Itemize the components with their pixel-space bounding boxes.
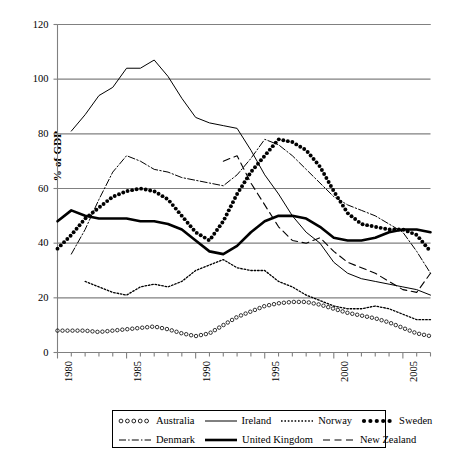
legend-key-dash-dot	[118, 434, 152, 446]
legend-item-ireland[interactable]: Ireland	[204, 415, 272, 427]
legend-item-label: Denmark	[156, 434, 195, 445]
legend-key-fine-dotted	[280, 415, 314, 427]
legend-item-label: New Zealand	[360, 434, 416, 445]
legend-item-label: Ireland	[242, 415, 272, 426]
legend-row: AustraliaIrelandNorwaySweden	[113, 411, 385, 430]
legend-key-dashed	[322, 434, 356, 446]
chart-root: % of GDP 020406080100120 198019851990199…	[0, 0, 456, 456]
legend-item-norway[interactable]: Norway	[280, 415, 352, 427]
series-norway	[85, 260, 430, 320]
series-united-kingdom	[58, 210, 431, 254]
legend-item-label: Norway	[318, 415, 352, 426]
legend-item-label: Sweden	[399, 415, 432, 426]
legend-item-new-zealand[interactable]: New Zealand	[322, 434, 416, 446]
legend-item-label: Australia	[156, 415, 195, 426]
legend-row: DenmarkUnited KingdomNew Zealand	[113, 430, 385, 449]
legend-key-thin-solid	[204, 415, 238, 427]
legend-item-united-kingdom[interactable]: United Kingdom	[204, 434, 313, 446]
legend-key-open-circle-dots	[118, 415, 152, 427]
legend-item-label: United Kingdom	[242, 434, 313, 445]
legend-key-thick-solid	[204, 434, 238, 446]
plot-canvas	[0, 0, 456, 456]
series-sweden	[56, 137, 431, 250]
series-ireland	[71, 60, 430, 295]
legend-item-denmark[interactable]: Denmark	[118, 434, 195, 446]
legend-item-australia[interactable]: Australia	[118, 415, 195, 427]
series-denmark	[71, 139, 430, 273]
chart-legend: AustraliaIrelandNorwaySwedenDenmarkUnite…	[112, 410, 386, 448]
legend-key-thick-dotted	[361, 415, 395, 427]
legend-item-sweden[interactable]: Sweden	[361, 415, 432, 427]
